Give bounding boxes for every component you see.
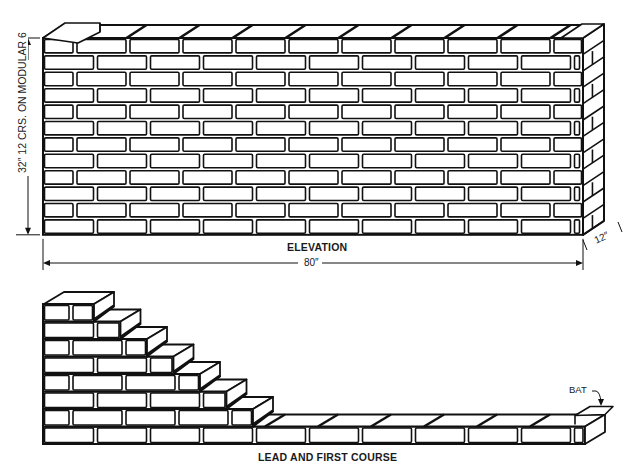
elevation-brick — [45, 56, 94, 69]
elevation-brick — [77, 204, 126, 217]
lead-brick — [98, 358, 147, 373]
elevation-brick — [342, 171, 391, 184]
elevation-brick — [183, 204, 232, 217]
elevation-brick — [469, 187, 518, 200]
elevation-brick — [469, 56, 518, 69]
elevation-brick — [554, 105, 582, 118]
elevation-brick — [416, 154, 465, 167]
elevation-brick — [45, 105, 74, 118]
elevation-brick — [77, 171, 126, 184]
lead-brick — [126, 411, 175, 426]
elevation-brick — [575, 56, 580, 69]
elevation-brick — [395, 72, 444, 85]
lead-brick — [151, 358, 173, 373]
elevation-brick — [151, 89, 200, 102]
elevation-brick — [98, 220, 147, 233]
elevation-brick — [448, 171, 497, 184]
elevation-brick — [151, 220, 200, 233]
elevation-brick — [501, 40, 550, 53]
elevation-brick — [45, 122, 94, 135]
lead-brick — [45, 341, 70, 356]
elevation-brick — [183, 105, 232, 118]
brick-masonry-drawing — [0, 0, 636, 470]
lead-brick — [45, 323, 94, 338]
elevation-brick — [342, 105, 391, 118]
elevation-brick — [45, 220, 94, 233]
elevation-brick — [257, 89, 306, 102]
elevation-brick — [522, 187, 571, 200]
lead-brick — [73, 341, 122, 356]
elevation-brick — [501, 72, 550, 85]
elevation-wall-drawing — [43, 23, 604, 235]
elevation-brick — [289, 138, 338, 151]
elevation-brick — [395, 105, 444, 118]
elevation-brick — [575, 220, 580, 233]
elevation-brick — [45, 204, 74, 217]
elevation-brick — [183, 72, 232, 85]
lead-brick — [45, 306, 70, 321]
elevation-brick — [416, 220, 465, 233]
elevation-brick — [151, 122, 200, 135]
elevation-brick — [204, 56, 253, 69]
first-course-brick — [575, 428, 584, 443]
elevation-brick — [236, 171, 285, 184]
elevation-brick — [310, 122, 359, 135]
elevation-brick — [236, 105, 285, 118]
elevation-brick — [448, 204, 497, 217]
elevation-brick — [416, 89, 465, 102]
elevation-brick — [45, 138, 74, 151]
elevation-brick — [575, 89, 580, 102]
elevation-brick — [342, 204, 391, 217]
elevation-brick — [183, 138, 232, 151]
elevation-brick — [342, 72, 391, 85]
elevation-brick — [554, 40, 582, 53]
elevation-brick — [77, 105, 126, 118]
first-course-brick — [522, 428, 571, 443]
elevation-brick — [257, 122, 306, 135]
lead-brick — [73, 306, 93, 321]
elevation-brick — [77, 40, 126, 53]
first-course-brick — [469, 428, 518, 443]
elevation-brick — [289, 171, 338, 184]
elevation-brick — [522, 154, 571, 167]
elevation-brick — [183, 171, 232, 184]
elevation-brick — [416, 56, 465, 69]
lead-brick — [73, 411, 122, 426]
elevation-brick — [469, 154, 518, 167]
elevation-brick — [554, 72, 582, 85]
elevation-brick — [257, 154, 306, 167]
lead-brick — [151, 393, 200, 408]
elevation-brick — [363, 122, 412, 135]
height-dimension-label: 32″ 12 CRS. ON MODULAR 6 — [16, 29, 28, 176]
elevation-brick — [448, 105, 497, 118]
first-course-brick — [98, 428, 147, 443]
elevation-brick — [98, 154, 147, 167]
elevation-brick — [395, 40, 444, 53]
elevation-brick — [501, 105, 550, 118]
elevation-brick — [98, 56, 147, 69]
elevation-brick — [448, 138, 497, 151]
elevation-brick — [257, 187, 306, 200]
elevation-brick — [204, 89, 253, 102]
elevation-brick — [310, 56, 359, 69]
elevation-brick — [554, 204, 582, 217]
elevation-brick — [257, 220, 306, 233]
elevation-brick — [151, 56, 200, 69]
bat-leader-arrow — [592, 391, 604, 406]
elevation-brick — [501, 204, 550, 217]
elevation-brick — [98, 187, 147, 200]
elevation-brick — [575, 122, 580, 135]
elevation-brick — [363, 154, 412, 167]
elevation-brick — [395, 204, 444, 217]
elevation-brick — [469, 122, 518, 135]
elevation-brick — [45, 89, 94, 102]
elevation-brick — [522, 89, 571, 102]
lead-brick — [232, 411, 252, 426]
elevation-brick — [130, 138, 179, 151]
lead-brick — [45, 411, 70, 426]
elevation-brick — [310, 220, 359, 233]
elevation-brick — [45, 72, 74, 85]
lead-brick — [98, 393, 147, 408]
lead-brick — [126, 376, 175, 391]
elevation-brick — [130, 105, 179, 118]
